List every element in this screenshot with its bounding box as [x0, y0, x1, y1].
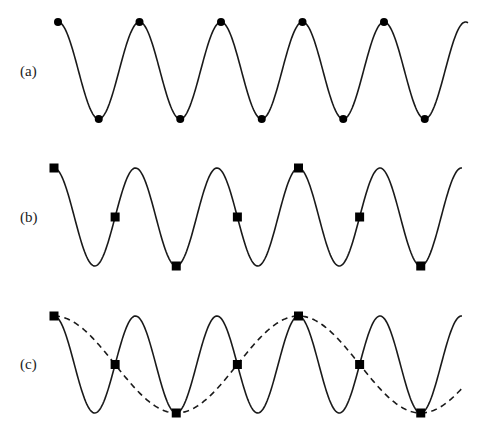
panel-label-b: (b) — [20, 209, 38, 226]
sample-point-b-2 — [172, 262, 181, 271]
panel-label-a: (a) — [20, 63, 37, 80]
aliasing-figure: (a) (b) (c) — [0, 0, 486, 439]
sample-point-c-5 — [355, 360, 364, 369]
panel-label-c: (c) — [20, 356, 37, 373]
sample-point-a-2 — [136, 18, 144, 26]
sample-point-b-0 — [50, 164, 59, 173]
panel-a: (a) — [20, 18, 468, 123]
sample-point-c-3 — [233, 360, 242, 369]
sample-point-a-5 — [258, 115, 266, 123]
sample-point-c-4 — [294, 312, 303, 321]
sample-point-c-0 — [50, 312, 59, 321]
sample-point-a-7 — [339, 115, 347, 123]
panel-b: (b) — [20, 164, 462, 271]
panel-c: (c) — [20, 312, 462, 418]
sample-point-a-0 — [54, 18, 62, 26]
sample-markers-b — [50, 164, 426, 271]
signal-curve-a — [58, 22, 468, 119]
sample-markers-c — [50, 312, 426, 418]
sample-point-a-3 — [176, 115, 184, 123]
sample-point-c-1 — [111, 360, 120, 369]
sample-point-a-1 — [95, 115, 103, 123]
sample-point-b-1 — [111, 213, 120, 222]
sample-point-a-6 — [299, 18, 307, 26]
sample-point-a-8 — [380, 18, 388, 26]
sample-point-a-9 — [421, 115, 429, 123]
sample-point-b-4 — [294, 164, 303, 173]
sample-point-c-6 — [416, 409, 425, 418]
sample-point-b-6 — [416, 262, 425, 271]
sample-point-a-4 — [217, 18, 225, 26]
sample-point-c-2 — [172, 409, 181, 418]
sample-point-b-5 — [355, 213, 364, 222]
sample-point-b-3 — [233, 213, 242, 222]
